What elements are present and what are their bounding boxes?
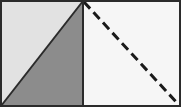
figure-container [0,0,181,107]
geometric-figure [0,0,181,107]
